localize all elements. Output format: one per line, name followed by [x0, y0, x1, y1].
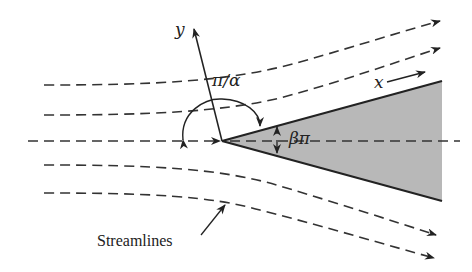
- streamlines-pointer-arrow: [201, 205, 225, 235]
- angle-beta-label: βπ: [289, 128, 310, 148]
- flow-past-wedge-diagram: y x π/α βπ Streamlines: [0, 0, 472, 272]
- x-axis-arrow: [387, 72, 425, 82]
- y-axis-label: y: [175, 19, 185, 39]
- diagram-graphics: [0, 0, 472, 272]
- x-axis-label: x: [374, 72, 384, 92]
- streamlines-label: Streamlines: [97, 232, 173, 250]
- angle-alpha-label: π/α: [212, 70, 240, 90]
